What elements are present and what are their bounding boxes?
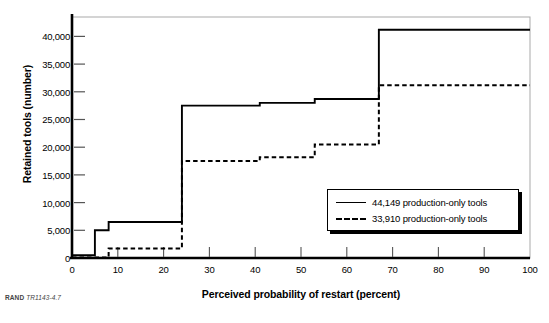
step-chart-plot xyxy=(0,0,549,323)
legend-label-dashed: 33,910 production-only tools xyxy=(372,213,487,224)
x-tick-label: 20 xyxy=(159,264,169,275)
y-axis-tick-labels: 05,00010,00015,00020,00025,00030,00035,0… xyxy=(8,0,70,323)
figure-container: Retained tools (number) Perceived probab… xyxy=(0,0,549,323)
y-tick-label: 35,000 xyxy=(10,59,70,70)
x-tick-label: 70 xyxy=(388,264,398,275)
x-tick-label: 50 xyxy=(296,264,306,275)
series-line-2 xyxy=(72,85,530,257)
y-tick-label: 20,000 xyxy=(10,142,70,153)
x-tick-label: 0 xyxy=(69,264,74,275)
legend-label-solid: 44,149 production-only tools xyxy=(372,197,487,208)
caption-number: TR1143-4.7 xyxy=(26,294,61,301)
y-tick-label: 15,000 xyxy=(10,169,70,180)
legend-line-solid-icon xyxy=(336,197,366,207)
x-tick-label: 40 xyxy=(250,264,260,275)
x-tick-label: 60 xyxy=(342,264,352,275)
y-tick-label: 30,000 xyxy=(10,86,70,97)
x-tick-label: 90 xyxy=(479,264,489,275)
figure-caption: RAND TR1143-4.7 xyxy=(5,294,61,301)
x-tick-label: 10 xyxy=(113,264,123,275)
x-tick-label: 30 xyxy=(204,264,214,275)
y-tick-label: 40,000 xyxy=(10,31,70,42)
x-axis-title: Perceived probability of restart (percen… xyxy=(72,288,530,300)
legend-line-dashed-icon xyxy=(336,213,366,223)
y-tick-label: 0 xyxy=(10,253,70,264)
caption-source: RAND xyxy=(5,294,24,301)
chart-legend: 44,149 production-only tools 33,910 prod… xyxy=(327,189,519,231)
y-tick-label: 10,000 xyxy=(10,197,70,208)
y-tick-label: 25,000 xyxy=(10,114,70,125)
y-tick-label: 5,000 xyxy=(10,225,70,236)
legend-entry-solid: 44,149 production-only tools xyxy=(336,195,487,209)
x-tick-label: 80 xyxy=(433,264,443,275)
x-tick-label: 100 xyxy=(522,264,537,275)
legend-entry-dashed: 33,910 production-only tools xyxy=(336,211,487,225)
